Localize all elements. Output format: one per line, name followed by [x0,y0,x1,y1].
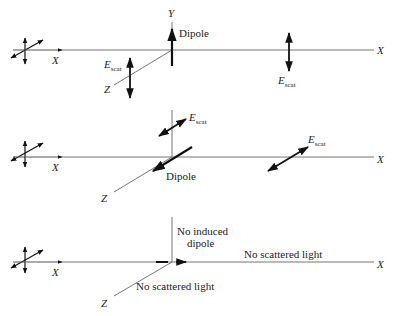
escat-label-z: Escat [103,58,122,73]
x-axis-label-left: X [51,54,60,66]
no-induced-dipole-label-2: dipole [187,237,215,249]
no-scattered-light-x-label: No scattered light [244,248,322,260]
z-axis [114,157,172,192]
dipole-label: Dipole [179,27,209,39]
z-axis-label: Z [101,297,108,309]
x-axis-label-left: X [51,266,60,278]
x-axis-label-right: X [376,44,385,56]
z-axis-label: Z [101,192,108,204]
panel-1: X X Y Z Dipole Escat Escat [11,7,385,98]
x-axis-label-left: X [51,161,60,173]
z-axis-label: Z [104,83,111,95]
scattering-diagram: X X Y Z Dipole Escat Escat X X Z Dipole … [0,0,396,316]
no-scattered-light-z-label: No scattered light [136,280,214,292]
panel-2: X X Z Dipole Escat Escat [11,110,385,204]
unpolarized-light-icon [11,38,43,64]
x-axis-label-right: X [376,258,385,270]
escat-label-y: Escat [188,111,207,126]
dipole-label: Dipole [166,170,196,182]
unpolarized-light-icon [11,247,43,273]
escat-arrow-x [268,147,308,171]
panel-3: X X Z No induced dipole No scattered lig… [11,217,385,309]
escat-label-x: Escat [307,133,326,148]
y-axis-label: Y [168,7,176,19]
unpolarized-light-icon [11,141,43,167]
no-induced-dipole-label-1: No induced [177,225,229,237]
escat-label-x: Escat [277,74,296,89]
z-axis [114,50,172,85]
x-axis-label-right: X [376,153,385,165]
